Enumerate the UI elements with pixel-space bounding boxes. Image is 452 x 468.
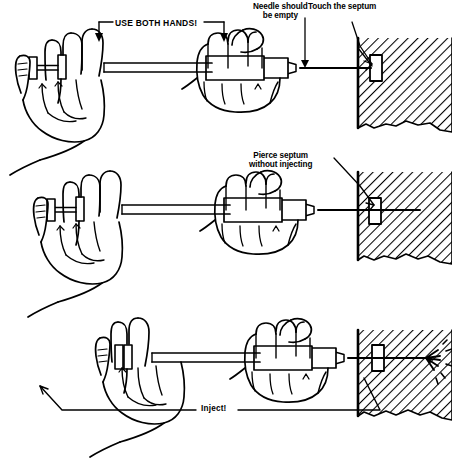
injection-technique-figure: USE BOTH HANDS! Needle should be empty T… <box>0 0 452 468</box>
barrel-flange-3 <box>124 345 132 369</box>
syringe-barrel-2 <box>224 198 282 222</box>
syringe-nose-3 <box>310 348 336 368</box>
label-needle-should-be-empty-line2: be empty <box>253 12 308 21</box>
label-pierce-septum-line2: without injecting <box>249 161 312 170</box>
syringe-barrel-3 <box>254 346 312 370</box>
plunger-thumb-rest-3 <box>115 345 123 369</box>
syringe-barrel-1 <box>206 56 264 80</box>
label-needle-should-be-empty: Needle should be empty <box>253 3 308 21</box>
syringe-nose-2 <box>280 200 306 220</box>
label-use-both-hands: USE BOTH HANDS! <box>115 19 197 28</box>
label-pierce-septum-without-injecting: Pierce septum without injecting <box>249 152 312 170</box>
septum-wall-3 <box>358 330 452 420</box>
barrel-flange-2 <box>76 197 84 221</box>
figure-artwork <box>0 0 452 468</box>
label-inject: Inject! <box>201 405 227 414</box>
septum-wall-1 <box>358 38 452 132</box>
syringe-nose-1 <box>262 58 288 78</box>
label-touch-the-septum: Touch the septum <box>308 3 376 12</box>
barrel-flange-1 <box>58 55 66 79</box>
